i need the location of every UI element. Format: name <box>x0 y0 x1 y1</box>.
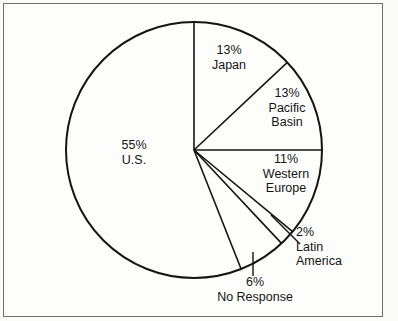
slice-name-latin-america-line2: America <box>296 254 380 269</box>
slice-percent-latin-america: 2% <box>296 225 380 240</box>
slice-percent-no-response: 6% <box>196 275 314 290</box>
slice-name-pacific-basin-line2: Basin <box>252 115 322 130</box>
slice-percent-western-europe: 11% <box>244 152 328 167</box>
slice-percent-pacific-basin: 13% <box>252 86 322 101</box>
slice-name-pacific-basin-line1: Pacific <box>252 101 322 116</box>
slice-name-japan: Japan <box>196 58 262 73</box>
slice-name-us: U.S. <box>104 153 164 168</box>
slice-label-japan: 13% Japan <box>196 43 262 72</box>
slice-name-latin-america-line1: Latin <box>296 240 380 255</box>
slice-label-pacific-basin: 13% Pacific Basin <box>252 86 322 130</box>
slice-label-us: 55% U.S. <box>104 138 164 167</box>
slice-label-no-response: 6% No Response <box>196 275 314 304</box>
slice-label-western-europe: 11% Western Europe <box>244 152 328 196</box>
slice-name-no-response: No Response <box>196 290 314 305</box>
slice-divider-noresponse-us <box>194 150 241 269</box>
slice-percent-us: 55% <box>104 138 164 153</box>
slice-label-latin-america: 2% Latin America <box>296 225 380 269</box>
slice-percent-japan: 13% <box>196 43 262 58</box>
pie-chart-figure: 13% Japan 13% Pacific Basin 11% Western … <box>0 0 398 321</box>
slice-name-western-europe-line1: Western <box>244 167 328 182</box>
slice-name-western-europe-line2: Europe <box>244 181 328 196</box>
